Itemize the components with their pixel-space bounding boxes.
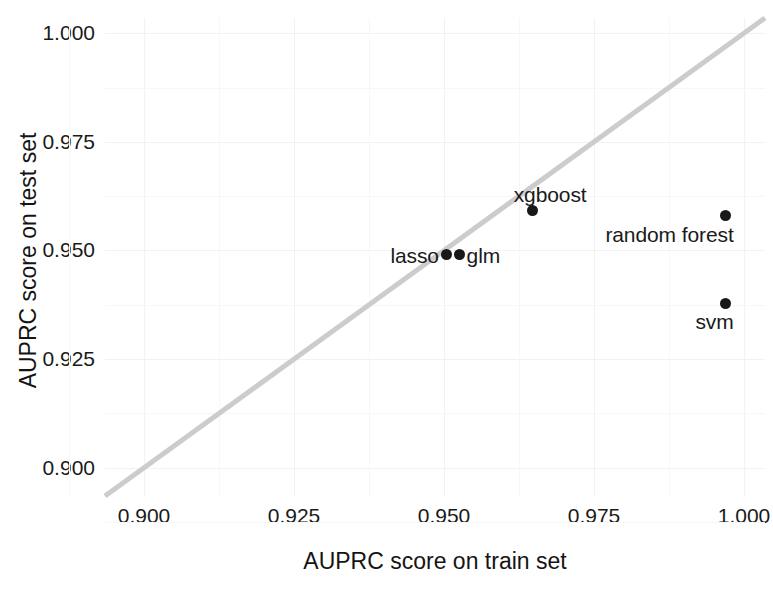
data-point-label-svm: svm <box>695 310 733 334</box>
auprc-train-vs-test-scatter-chart: 0.9000.9250.9500.9751.000 0.9000.9250.95… <box>0 0 773 602</box>
data-point-svm[interactable] <box>720 298 731 309</box>
x-axis-title: AUPRC score on train set <box>105 548 765 575</box>
x-axis-tick-labels: 0.9000.9250.9500.9751.000 <box>105 500 765 536</box>
data-point-label-lasso: lasso <box>390 244 439 268</box>
plot-area: lassoglmxgboostrandom forestsvm <box>105 18 765 496</box>
x-tick-label: 0.900 <box>118 504 171 528</box>
x-tick-label: 0.975 <box>568 504 621 528</box>
gridline-horizontal-minor <box>105 522 765 523</box>
y-axis-title: AUPRC score on test set <box>15 22 42 500</box>
data-point-label-xgboost: xgboost <box>514 183 587 207</box>
x-tick-label: 0.925 <box>268 504 321 528</box>
x-tick-label: 0.950 <box>418 504 471 528</box>
data-point-label-glm: glm <box>467 244 501 268</box>
data-point-xgboost[interactable] <box>527 205 538 216</box>
data-point-label-random-forest: random forest <box>605 223 733 247</box>
gridline-vertical-minor <box>69 18 70 496</box>
x-tick-label: 1.000 <box>718 504 771 528</box>
